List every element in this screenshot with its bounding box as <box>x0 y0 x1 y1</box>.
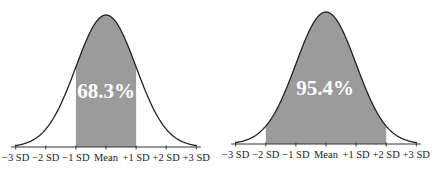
percentage-label: 95.4% <box>296 76 354 100</box>
tick-label-plus-2sd: +2 SD <box>153 152 181 163</box>
tick-label-plus-2sd: +2 SD <box>373 149 401 160</box>
x-axis-tick-labels: −3 SD −2 SD −1 SD Mean +1 SD +2 SD +3 SD <box>222 149 430 160</box>
tick-label-plus-3sd: +3 SD <box>403 149 431 160</box>
chart-95-percent: −3 SD −2 SD −1 SD Mean +1 SD +2 SD +3 SD… <box>222 12 430 160</box>
percentage-label: 68.3% <box>77 79 135 103</box>
tick-label-minus-3sd: −3 SD <box>222 149 250 160</box>
tick-label-plus-3sd: +3 SD <box>183 152 211 163</box>
normal-distribution-figure: −3 SD −2 SD −1 SD Mean +1 SD +2 SD +3 SD… <box>0 0 432 174</box>
tick-label-minus-1sd: −1 SD <box>282 149 310 160</box>
tick-label-minus-2sd: −2 SD <box>32 152 60 163</box>
tick-label-minus-3sd: −3 SD <box>2 152 30 163</box>
tick-label-minus-2sd: −2 SD <box>252 149 280 160</box>
tick-label-mean: Mean <box>94 152 119 163</box>
tick-label-plus-1sd: +1 SD <box>342 149 370 160</box>
tick-label-minus-1sd: −1 SD <box>62 152 90 163</box>
tick-label-plus-1sd: +1 SD <box>122 152 150 163</box>
x-axis-tick-labels: −3 SD −2 SD −1 SD Mean +1 SD +2 SD +3 SD <box>2 152 210 163</box>
tick-label-mean: Mean <box>314 149 339 160</box>
chart-68-percent: −3 SD −2 SD −1 SD Mean +1 SD +2 SD +3 SD… <box>2 15 210 163</box>
